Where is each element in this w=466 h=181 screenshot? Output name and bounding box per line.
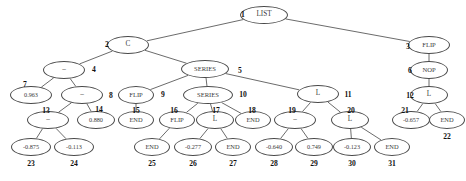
tree-node-27[interactable]: END [215, 138, 251, 156]
tree-edge [59, 103, 72, 112]
tree-node-label: END [246, 116, 259, 122]
tree-node-label: FLIP [422, 41, 436, 48]
tree-edge [147, 20, 244, 41]
tree-edge [41, 78, 53, 87]
tree-node-label: C [126, 41, 131, 48]
tree-node-label: L [348, 116, 352, 123]
tree-node-index-22: 22 [440, 133, 454, 141]
tree-node-4[interactable]: – [43, 61, 85, 79]
tree-node-23[interactable]: -0.875 [11, 138, 51, 156]
tree-edge [328, 102, 341, 112]
tree-node-label: END [129, 116, 142, 122]
tree-node-index-26: 26 [186, 160, 200, 168]
tree-node-index-24: 24 [67, 160, 81, 168]
tree-edge [36, 129, 42, 139]
tree-node-11[interactable]: L [297, 85, 339, 103]
tree-node-index-23: 23 [24, 160, 38, 168]
tree-node-25[interactable]: END [134, 138, 170, 156]
tree-node-30[interactable]: -0.123 [333, 138, 371, 156]
tree-node-26[interactable]: -0.277 [174, 138, 212, 156]
tree-node-3[interactable]: FLIP [408, 36, 450, 54]
tree-node-index-16: 16 [167, 107, 181, 115]
tree-edge [281, 129, 289, 139]
tree-edge [361, 127, 381, 140]
tree-node-index-18: 18 [245, 107, 259, 115]
tree-edge [150, 75, 188, 89]
tree-node-label: END [440, 116, 453, 122]
tree-node-label: -0.657 [403, 116, 419, 122]
tree-edge [70, 79, 76, 87]
tree-node-24[interactable]: -0.113 [54, 138, 94, 156]
tree-node-index-17: 17 [209, 107, 223, 115]
tree-edge [302, 102, 310, 111]
tree-node-label: -0.113 [66, 143, 82, 149]
tree-node-label: – [62, 66, 66, 73]
tree-node-label: -0.123 [344, 143, 360, 149]
tree-node-28[interactable]: -0.640 [255, 138, 293, 156]
tree-node-label: 0.880 [89, 116, 103, 122]
tree-node-label: – [293, 116, 297, 123]
tree-node-label: END [226, 143, 239, 149]
tree-node-label: -0.875 [23, 143, 39, 149]
tree-node-label: END [145, 143, 158, 149]
tree-node-22[interactable]: END [429, 111, 465, 129]
tree-node-index-8: 8 [105, 92, 117, 100]
tree-node-index-29: 29 [307, 160, 321, 168]
tree-node-label: LIST [256, 11, 271, 18]
tree-node-index-14: 14 [92, 106, 106, 114]
tree-node-label: L [316, 90, 320, 97]
tree-edge [87, 104, 91, 112]
tree-node-index-12: 12 [403, 92, 417, 100]
tree-node-label: SERIES [197, 91, 219, 98]
tree-edge [56, 128, 66, 138]
tree-node-7[interactable]: 0.963 [10, 86, 52, 104]
tree-node-index-2: 2 [101, 41, 113, 49]
tree-node-8[interactable]: – [61, 86, 103, 104]
tree-edge [221, 129, 228, 139]
tree-node-label: SERIES [194, 65, 216, 72]
tree-edge [286, 19, 410, 42]
tree-node-label: L [213, 116, 217, 123]
tree-node-label: NOP [422, 66, 435, 73]
tree-node-label: – [46, 116, 50, 123]
tree-node-index-5: 5 [234, 67, 246, 75]
tree-node-index-3: 3 [402, 43, 414, 51]
tree-node-5[interactable]: SERIES [181, 60, 229, 78]
tree-node-index-1: 1 [237, 11, 249, 19]
tree-node-label: 0.749 [307, 143, 321, 149]
tree-node-index-21: 21 [398, 107, 412, 115]
tree-node-index-15: 15 [129, 107, 143, 115]
tree-node-index-28: 28 [267, 160, 281, 168]
tree-node-index-10: 10 [236, 91, 250, 99]
tree-edge [301, 129, 308, 139]
tree-node-index-31: 31 [385, 160, 399, 168]
tree-node-29[interactable]: 0.749 [295, 138, 333, 156]
tree-edge [206, 78, 207, 86]
tree-edge [80, 51, 113, 64]
tree-node-index-20: 20 [344, 107, 358, 115]
tree-edge [351, 129, 352, 138]
tree-node-index-9: 9 [157, 91, 169, 99]
tree-node-label: 0.963 [24, 91, 38, 97]
tree-edge [145, 50, 187, 63]
tree-node-2[interactable]: C [107, 36, 149, 54]
tree-node-label: END [385, 143, 398, 149]
tree-node-label: – [80, 91, 84, 98]
tree-node-index-4: 4 [88, 66, 100, 74]
tree-edge [435, 104, 441, 112]
tree-node-31[interactable]: END [374, 138, 410, 156]
tree-node-index-19: 19 [285, 107, 299, 115]
tree-edge [186, 103, 197, 112]
tree-node-10[interactable]: SERIES [183, 86, 233, 104]
tree-edge [417, 104, 423, 112]
tree-edge [200, 128, 208, 138]
tree-edge [160, 128, 170, 139]
tree-node-index-13: 13 [39, 107, 53, 115]
tree-node-index-11: 11 [341, 91, 355, 99]
tree-node-9[interactable]: FLIP [118, 86, 154, 104]
tree-node-label: FLIP [129, 91, 143, 98]
tree-node-label: FLIP [170, 116, 184, 123]
tree-node-label: L [427, 91, 431, 98]
tree-node-index-7: 7 [19, 81, 31, 89]
tree-node-index-30: 30 [345, 160, 359, 168]
